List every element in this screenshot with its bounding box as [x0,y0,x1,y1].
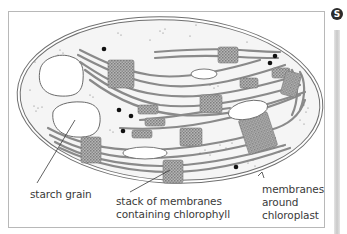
label-grana-stack: stack of membranes containing chlorophyl… [116,195,230,221]
label-stack-line1: stack of membranes [116,195,230,208]
label-starch-grain: starch grain [30,188,92,201]
label-envelope-membranes: membranes around chloroplast [262,183,324,222]
label-stack-line2: containing chlorophyll [116,208,230,221]
label-membranes-line1: membranes [262,183,324,196]
membrane-leader [258,172,264,178]
label-starch-grain-text: starch grain [30,188,92,200]
label-membranes-line3: chloroplast [262,209,324,222]
label-membranes-line2: around [262,196,324,209]
